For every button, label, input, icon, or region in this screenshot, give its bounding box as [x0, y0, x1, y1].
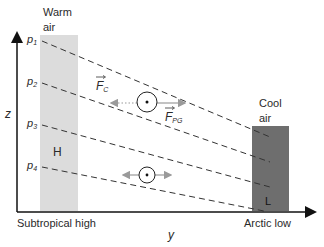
pressure-level-p1: p1	[27, 34, 37, 46]
lower-air-parcel	[124, 167, 170, 183]
pressure-level-p2: p2	[27, 76, 37, 88]
z-axis-label: z	[5, 108, 11, 120]
arctic-low-label: Arctic low	[244, 218, 291, 229]
cool-air-label-2: air	[259, 113, 271, 124]
warm-air-column	[40, 35, 78, 211]
low-pressure-label: L	[265, 196, 271, 207]
pressure-level-p4: p4	[27, 160, 37, 172]
cool-air-label: Cool	[259, 98, 282, 109]
y-axis-label: y	[168, 229, 174, 241]
high-pressure-label: H	[53, 146, 62, 158]
pressure-level-p3: p3	[27, 118, 37, 130]
diagram-canvas	[0, 0, 324, 247]
coriolis-force-label: FC	[96, 80, 108, 93]
warm-air-label: Warm	[43, 7, 72, 18]
subtropical-high-label: Subtropical high	[17, 218, 96, 229]
parcel-dot	[146, 101, 149, 104]
pressure-gradient-force-label: FPG	[165, 111, 182, 124]
warm-air-label-2: air	[43, 22, 55, 33]
